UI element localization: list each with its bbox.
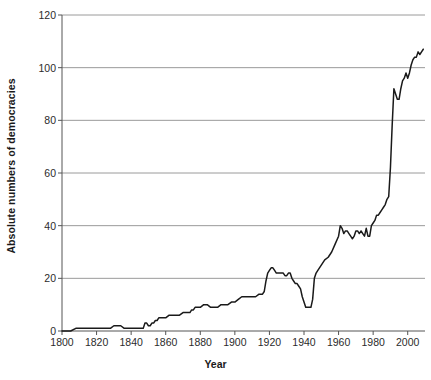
x-axis-label-text: Year — [204, 358, 226, 370]
x-axis-label: Year — [0, 358, 431, 370]
chart-container: Absolute numbers of democracies 02040608… — [0, 0, 431, 380]
plot-area — [0, 0, 431, 380]
data-line-democracies — [62, 49, 423, 331]
